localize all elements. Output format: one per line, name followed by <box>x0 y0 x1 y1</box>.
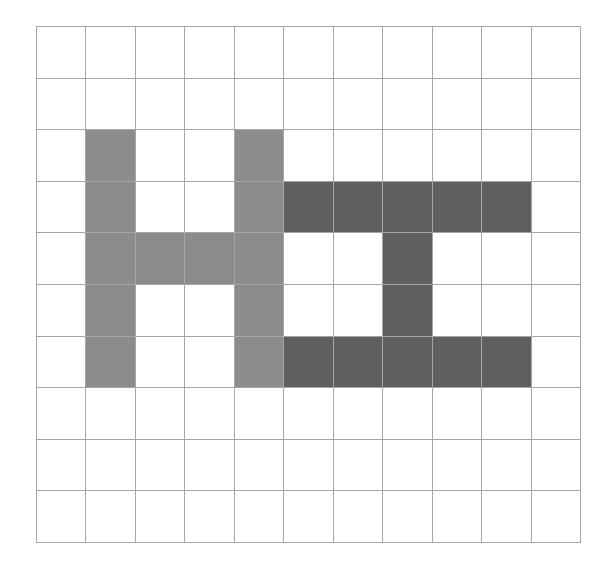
empty-cell <box>334 285 383 337</box>
empty-cell <box>532 285 581 337</box>
empty-cell <box>383 440 432 492</box>
pixel-grid <box>36 26 581 543</box>
empty-cell <box>334 233 383 285</box>
empty-cell <box>185 491 234 543</box>
empty-cell <box>433 130 482 182</box>
filled-cell-h-shape <box>136 233 185 285</box>
empty-cell <box>86 440 135 492</box>
empty-cell <box>482 440 531 492</box>
empty-cell <box>37 233 86 285</box>
empty-cell <box>334 130 383 182</box>
filled-cell-h-shape <box>185 233 234 285</box>
empty-cell <box>136 337 185 389</box>
filled-cell-i-beam-shape <box>482 182 531 234</box>
empty-cell <box>136 79 185 131</box>
empty-cell <box>383 130 432 182</box>
empty-cell <box>37 182 86 234</box>
empty-cell <box>383 79 432 131</box>
empty-cell <box>532 491 581 543</box>
filled-cell-i-beam-shape <box>383 233 432 285</box>
empty-cell <box>433 233 482 285</box>
empty-cell <box>532 182 581 234</box>
empty-cell <box>136 27 185 79</box>
empty-cell <box>37 79 86 131</box>
filled-cell-i-beam-shape <box>383 182 432 234</box>
empty-cell <box>334 388 383 440</box>
empty-cell <box>334 79 383 131</box>
filled-cell-i-beam-shape <box>334 337 383 389</box>
empty-cell <box>532 388 581 440</box>
filled-cell-i-beam-shape <box>383 285 432 337</box>
empty-cell <box>532 130 581 182</box>
empty-cell <box>185 285 234 337</box>
empty-cell <box>284 79 333 131</box>
empty-cell <box>86 491 135 543</box>
empty-cell <box>185 27 234 79</box>
filled-cell-i-beam-shape <box>284 337 333 389</box>
empty-cell <box>86 27 135 79</box>
empty-cell <box>37 27 86 79</box>
empty-cell <box>284 440 333 492</box>
filled-cell-h-shape <box>235 285 284 337</box>
filled-cell-i-beam-shape <box>482 337 531 389</box>
empty-cell <box>433 491 482 543</box>
empty-cell <box>383 491 432 543</box>
empty-cell <box>185 440 234 492</box>
empty-cell <box>185 130 234 182</box>
filled-cell-h-shape <box>235 182 284 234</box>
empty-cell <box>235 440 284 492</box>
empty-cell <box>136 388 185 440</box>
empty-cell <box>37 440 86 492</box>
empty-cell <box>433 27 482 79</box>
empty-cell <box>284 27 333 79</box>
empty-cell <box>136 440 185 492</box>
filled-cell-h-shape <box>86 182 135 234</box>
empty-cell <box>482 491 531 543</box>
empty-cell <box>136 130 185 182</box>
empty-cell <box>235 491 284 543</box>
empty-cell <box>482 388 531 440</box>
empty-cell <box>433 388 482 440</box>
empty-cell <box>433 285 482 337</box>
filled-cell-h-shape <box>86 233 135 285</box>
empty-cell <box>334 27 383 79</box>
empty-cell <box>532 337 581 389</box>
empty-cell <box>37 388 86 440</box>
empty-cell <box>185 337 234 389</box>
empty-cell <box>532 79 581 131</box>
empty-cell <box>37 285 86 337</box>
filled-cell-i-beam-shape <box>383 337 432 389</box>
filled-cell-h-shape <box>235 130 284 182</box>
empty-cell <box>383 388 432 440</box>
empty-cell <box>433 79 482 131</box>
empty-cell <box>136 491 185 543</box>
empty-cell <box>86 388 135 440</box>
empty-cell <box>482 130 531 182</box>
empty-cell <box>482 233 531 285</box>
empty-cell <box>284 388 333 440</box>
empty-cell <box>334 440 383 492</box>
empty-cell <box>235 79 284 131</box>
empty-cell <box>185 79 234 131</box>
empty-cell <box>136 182 185 234</box>
filled-cell-i-beam-shape <box>433 182 482 234</box>
empty-cell <box>284 233 333 285</box>
empty-cell <box>532 27 581 79</box>
empty-cell <box>284 491 333 543</box>
empty-cell <box>235 388 284 440</box>
empty-cell <box>532 440 581 492</box>
empty-cell <box>185 388 234 440</box>
empty-cell <box>482 285 531 337</box>
filled-cell-i-beam-shape <box>284 182 333 234</box>
filled-cell-i-beam-shape <box>334 182 383 234</box>
empty-cell <box>284 130 333 182</box>
diagram-canvas <box>0 0 608 580</box>
filled-cell-h-shape <box>235 233 284 285</box>
empty-cell <box>86 79 135 131</box>
empty-cell <box>235 27 284 79</box>
empty-cell <box>532 233 581 285</box>
empty-cell <box>334 491 383 543</box>
empty-cell <box>482 27 531 79</box>
empty-cell <box>383 27 432 79</box>
filled-cell-h-shape <box>235 337 284 389</box>
